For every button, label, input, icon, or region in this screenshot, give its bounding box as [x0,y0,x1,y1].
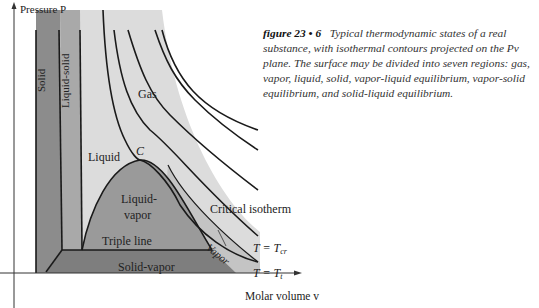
label-solid-vapor: Solid-vapor [118,260,175,275]
t-t-text: T = T [253,266,280,280]
label-gas: Gas [138,87,157,102]
label-solid: Solid [35,69,47,92]
solid-region [36,10,62,273]
label-t-cr: T = Tcr [253,241,287,256]
label-critical-point: C [136,144,144,159]
y-axis-label: Pressure P [20,3,66,15]
t-t-subscript: t [280,272,282,281]
label-liquid-vapor-2: vapor [124,208,151,223]
label-triple-line: Triple line [102,234,152,249]
label-liquid: Liquid [88,150,120,165]
figure-number: figure 23 • 6 [263,27,321,39]
t-cr-subscript: cr [280,247,287,256]
label-t-t: T = Tt [253,266,282,281]
label-liquid-vapor-1: Liquid- [121,192,157,207]
t-cr-text: T = T [253,241,280,255]
x-axis-label: Molar volume v [245,290,319,302]
figure-caption: figure 23 • 6 Typical thermodynamic stat… [263,26,533,101]
label-critical-isotherm: Critical isotherm [210,202,291,217]
label-liquid-solid: Liquid-solid [59,54,71,108]
liquid-solid-region [60,10,82,250]
